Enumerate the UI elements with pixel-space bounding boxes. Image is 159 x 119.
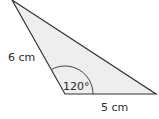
angle-label: 120° xyxy=(63,80,90,93)
triangle-diagram: 6 cm 5 cm 120° xyxy=(0,0,159,119)
left-side-label: 6 cm xyxy=(8,51,35,64)
bottom-side-label: 5 cm xyxy=(101,101,128,114)
